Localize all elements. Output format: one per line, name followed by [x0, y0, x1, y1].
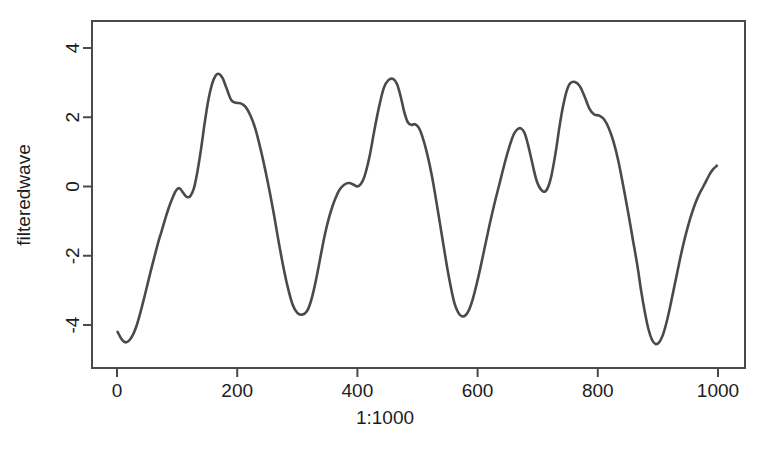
line-chart: 02004006008001000 -4-2024 1:1000 filtere… [0, 0, 763, 450]
x-axis-label: 1:1000 [356, 407, 414, 428]
x-tick-label: 600 [462, 380, 494, 401]
y-axis-label: filteredwave [13, 144, 34, 245]
y-tick-label: -4 [62, 316, 83, 333]
y-tick-label: 0 [62, 181, 83, 192]
y-tick-label: 2 [62, 112, 83, 123]
plot-container: 02004006008001000 -4-2024 1:1000 filtere… [0, 0, 763, 450]
x-tick-label: 800 [582, 380, 614, 401]
x-tick-label: 0 [112, 380, 123, 401]
y-tick-label: -2 [62, 247, 83, 264]
x-tick-label: 200 [221, 380, 253, 401]
y-tick-label: 4 [62, 42, 83, 53]
x-tick-label: 1000 [697, 380, 739, 401]
x-tick-label: 400 [342, 380, 374, 401]
